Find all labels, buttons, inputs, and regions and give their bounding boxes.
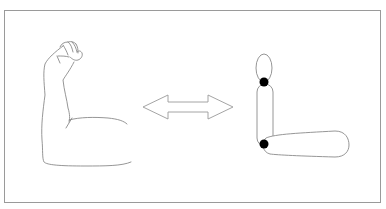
wrist-joint-icon	[260, 78, 269, 87]
horizontal-segment	[263, 131, 349, 157]
elbow-joint-icon	[260, 140, 269, 149]
figure-svg	[0, 0, 386, 209]
double-arrow-icon	[143, 95, 233, 119]
flexed-arm-icon	[42, 42, 131, 166]
figure-canvas: Line drawing of a flexed human arm (bice…	[0, 0, 386, 209]
joint-model-icon	[256, 54, 349, 157]
